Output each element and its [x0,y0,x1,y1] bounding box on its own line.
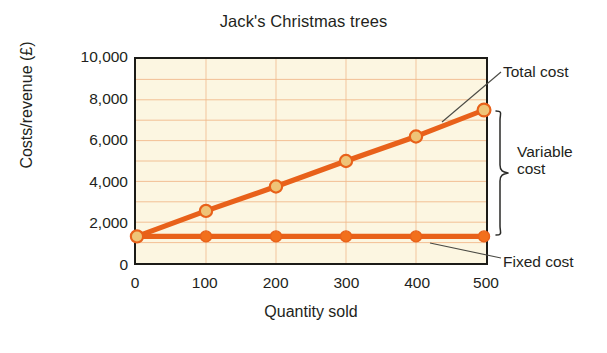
y-tick-10000: 10,000 [38,48,128,66]
data-series [136,59,486,263]
annotation-variable-cost: Variable cost [517,144,573,177]
x-tick-400: 400 [387,274,447,292]
annotation-fixed-cost: Fixed cost [503,254,574,271]
y-tick-2000: 2,000 [38,214,128,232]
x-axis-label: Quantity sold [134,303,488,321]
x-tick-100: 100 [175,274,235,292]
annotation-variable-cost-line2: cost [517,161,573,178]
annotation-total-cost: Total cost [503,64,568,81]
chart-figure: Jack's Christmas trees Costs/revenue (£)… [0,0,607,353]
curly-brace-variable-cost [496,111,508,235]
y-tick-0: 0 [38,256,128,274]
y-tick-8000: 8,000 [38,90,128,108]
chart-title: Jack's Christmas trees [0,12,607,31]
x-tick-0: 0 [105,274,165,292]
x-tick-500: 500 [456,274,516,292]
x-tick-300: 300 [316,274,376,292]
x-tick-200: 200 [246,274,306,292]
x-axis-tick-labels: 0 100 200 300 400 500 [134,274,488,298]
y-axis-tick-labels: 10,000 8,000 6,000 4,000 2,000 0 [36,57,128,265]
y-axis-label: Costs/revenue (£) [18,10,36,200]
plot-area [134,57,488,265]
y-tick-6000: 6,000 [38,131,128,149]
annotation-variable-cost-line1: Variable [517,144,573,161]
series-line-total-cost [137,110,484,236]
y-tick-4000: 4,000 [38,173,128,191]
